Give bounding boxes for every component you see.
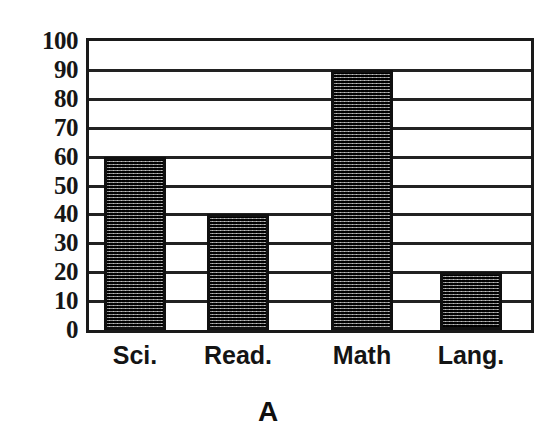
y-axis-tick-40: 40 — [0, 201, 78, 226]
y-axis-tick-30: 30 — [0, 230, 78, 255]
y-axis-tick-80: 80 — [0, 86, 78, 111]
x-axis-tick-lang: Lang. — [401, 341, 541, 370]
bar-chart-figure: 1009080706050403020100 Sci.Read.MathLang… — [0, 0, 560, 443]
gridline-90 — [89, 69, 531, 72]
bar-sci — [104, 157, 166, 330]
gridline-70 — [89, 127, 531, 130]
y-axis-tick-10: 10 — [0, 288, 78, 313]
y-axis-tick-50: 50 — [0, 173, 78, 198]
panel-caption: A — [0, 396, 560, 428]
bar-lang — [440, 272, 502, 330]
y-axis-tick-70: 70 — [0, 115, 78, 140]
plot-area — [86, 38, 534, 333]
y-axis-tick-60: 60 — [0, 144, 78, 169]
y-axis-tick-0: 0 — [0, 317, 78, 342]
bar-read — [207, 214, 269, 330]
panel-caption-text: A — [258, 396, 278, 427]
plot-inner — [89, 41, 531, 330]
y-axis-tick-90: 90 — [0, 57, 78, 82]
bar-math — [331, 70, 393, 330]
x-axis-tick-read: Read. — [168, 341, 308, 370]
y-axis-tick-100: 100 — [0, 28, 78, 53]
y-axis-tick-20: 20 — [0, 259, 78, 284]
gridline-80 — [89, 98, 531, 101]
